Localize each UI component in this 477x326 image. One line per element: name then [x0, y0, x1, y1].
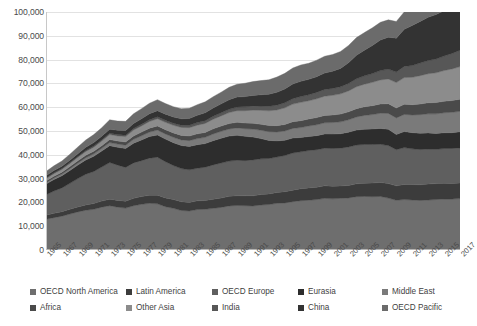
- legend-item-label: Eurasia: [308, 287, 336, 297]
- legend-item[interactable]: India: [212, 303, 240, 313]
- legend-swatch-icon: [126, 305, 132, 311]
- y-axis-tick-label: 20,000: [0, 197, 44, 207]
- legend-swatch-icon: [298, 305, 304, 311]
- legend-item-label: OECD Pacific: [392, 303, 442, 313]
- legend-item-label: Other Asia: [136, 303, 174, 313]
- x-axis: 1965196719691971197319751977197919811983…: [46, 252, 460, 284]
- legend-item[interactable]: China: [298, 303, 329, 313]
- legend-item-label: Middle East: [392, 287, 435, 297]
- legend-item-label: China: [308, 303, 329, 313]
- y-axis-tick-label: 10,000: [0, 221, 44, 231]
- legend-row: AfricaOther AsiaIndiaChinaOECD Pacific: [30, 302, 460, 318]
- y-axis-tick-label: 60,000: [0, 102, 44, 112]
- legend-item[interactable]: OECD North America: [30, 287, 118, 297]
- legend-item-label: Africa: [40, 303, 61, 313]
- x-axis-tick-label: 2017: [459, 240, 477, 258]
- legend-item[interactable]: OECD Pacific: [382, 303, 442, 313]
- y-axis-tick-label: 70,000: [0, 78, 44, 88]
- y-axis-tick-label: 100,000: [0, 7, 44, 17]
- legend-item-label: India: [222, 303, 240, 313]
- legend-swatch-icon: [30, 305, 36, 311]
- legend-swatch-icon: [382, 289, 388, 295]
- y-axis-tick-label: 90,000: [0, 31, 44, 41]
- legend-item[interactable]: Latin America: [126, 287, 186, 297]
- legend-item[interactable]: Middle East: [382, 287, 435, 297]
- plot-border: [46, 12, 460, 250]
- chart-legend: OECD North AmericaLatin AmericaOECD Euro…: [30, 286, 460, 320]
- legend-swatch-icon: [382, 305, 388, 311]
- y-axis-tick-label: 30,000: [0, 174, 44, 184]
- legend-item[interactable]: Other Asia: [126, 303, 174, 313]
- legend-item[interactable]: OECD Europe: [212, 287, 274, 297]
- legend-item-label: OECD Europe: [222, 287, 274, 297]
- legend-swatch-icon: [212, 289, 218, 295]
- plot-area: [46, 12, 460, 250]
- legend-item-label: OECD North America: [40, 287, 118, 297]
- y-axis-tick-label: 0: [0, 245, 44, 255]
- y-axis-tick-label: 40,000: [0, 150, 44, 160]
- y-axis-tick-label: 80,000: [0, 55, 44, 65]
- legend-item-label: Latin America: [136, 287, 186, 297]
- legend-swatch-icon: [212, 305, 218, 311]
- legend-swatch-icon: [126, 289, 132, 295]
- legend-item[interactable]: Africa: [30, 303, 61, 313]
- legend-swatch-icon: [298, 289, 304, 295]
- legend-swatch-icon: [30, 289, 36, 295]
- legend-row: OECD North AmericaLatin AmericaOECD Euro…: [30, 286, 460, 302]
- y-axis-tick-label: 50,000: [0, 126, 44, 136]
- y-axis: 010,00020,00030,00040,00050,00060,00070,…: [0, 12, 44, 250]
- legend-item[interactable]: Eurasia: [298, 287, 336, 297]
